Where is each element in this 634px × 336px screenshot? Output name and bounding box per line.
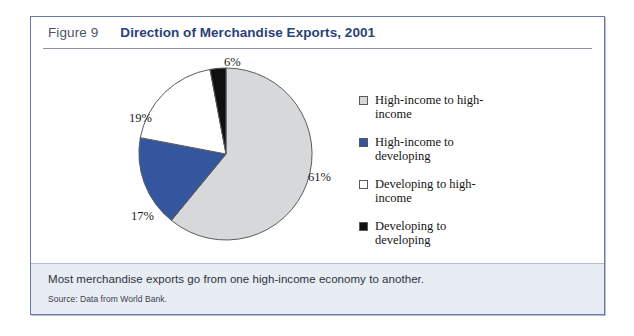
legend-item-high-income-to-high-income: High-income to high-income xyxy=(359,93,574,121)
legend-label: High-income to developing xyxy=(375,135,493,163)
figure-header: Figure 9 Direction of Merchandise Export… xyxy=(31,17,604,47)
pie-label-developing-to-developing: 6% xyxy=(224,55,241,70)
pie-chart xyxy=(136,64,316,244)
legend-label: Developing to developing xyxy=(375,219,493,247)
pie-label-high-income-to-developing: 17% xyxy=(131,209,154,224)
figure-title: Direction of Merchandise Exports, 2001 xyxy=(120,25,375,40)
figure-footer: Most merchandise exports go from one hig… xyxy=(31,263,604,314)
figure-panel: Figure 9 Direction of Merchandise Export… xyxy=(30,16,605,315)
pie-label-developing-to-high-income: 19% xyxy=(129,111,152,126)
legend-label: Developing to high-income xyxy=(375,177,493,205)
figure-caption: Most merchandise exports go from one hig… xyxy=(48,273,604,285)
chart-plot-area: 61% 17% 19% 6% High-income to high-incom… xyxy=(31,49,604,262)
figure-number: Figure 9 xyxy=(48,25,98,40)
legend-label: High-income to high-income xyxy=(375,93,493,121)
chart-legend: High-income to high-income High-income t… xyxy=(359,93,574,261)
pie-chart-svg xyxy=(136,64,316,244)
legend-item-developing-to-high-income: Developing to high-income xyxy=(359,177,574,205)
legend-swatch-blue-icon xyxy=(359,138,368,147)
legend-item-high-income-to-developing: High-income to developing xyxy=(359,135,574,163)
legend-swatch-gray-icon xyxy=(359,96,368,105)
pie-label-high-income-to-high-income: 61% xyxy=(308,170,331,185)
legend-swatch-black-icon xyxy=(359,222,368,231)
legend-swatch-white-icon xyxy=(359,180,368,189)
figure-source: Source: Data from World Bank. xyxy=(48,294,604,304)
legend-item-developing-to-developing: Developing to developing xyxy=(359,219,574,247)
